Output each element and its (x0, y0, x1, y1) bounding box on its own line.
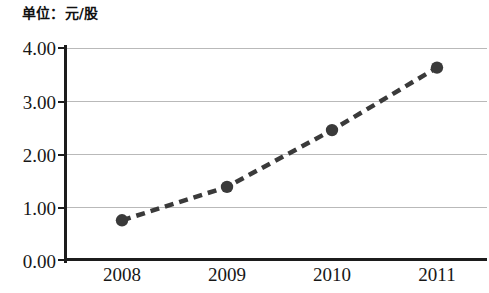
series-markers (116, 61, 443, 226)
data-point-2009 (221, 181, 233, 193)
x-tick-label-2009: 2009 (187, 264, 267, 286)
data-point-2010 (326, 124, 338, 136)
x-tick-label-2008: 2008 (82, 264, 162, 286)
data-series-layer (0, 0, 489, 293)
x-tick-label-2011: 2011 (397, 264, 477, 286)
data-point-2011 (431, 61, 443, 73)
series-line-dashed (122, 68, 437, 221)
x-tick-label-2010: 2010 (292, 264, 372, 286)
data-point-2008 (116, 214, 128, 226)
